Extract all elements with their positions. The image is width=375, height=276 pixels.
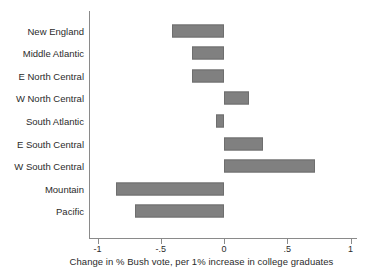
x-axis-tick-label: 1 — [348, 244, 353, 255]
category-label: New England — [0, 25, 84, 36]
bar-row: E South Central — [0, 131, 375, 156]
x-axis-tick-label: -.5 — [155, 244, 166, 255]
chart-figure: New EnglandMiddle AtlanticE North Centra… — [0, 0, 375, 276]
bar — [224, 160, 315, 173]
x-axis-tick-label: -1 — [93, 244, 101, 255]
plot-area: New EnglandMiddle AtlanticE North Centra… — [0, 0, 375, 276]
category-label: Pacific — [0, 206, 84, 217]
category-label: W North Central — [0, 93, 84, 104]
bar — [135, 205, 224, 218]
x-axis-tick-label: .5 — [283, 244, 291, 255]
bar — [172, 24, 224, 37]
bar — [192, 47, 224, 60]
bar — [192, 69, 224, 82]
bar — [116, 182, 224, 195]
bar-row: W North Central — [0, 86, 375, 111]
bar-row: W South Central — [0, 154, 375, 179]
category-label: Middle Atlantic — [0, 48, 84, 59]
bar-row: New England — [0, 18, 375, 43]
bar-row: Pacific — [0, 199, 375, 224]
x-axis-spine — [89, 238, 357, 239]
bar — [224, 92, 249, 105]
bar-row: Middle Atlantic — [0, 41, 375, 66]
category-label: South Atlantic — [0, 115, 84, 126]
x-axis-title-text: Change in % Bush vote, per 1% increase i… — [70, 256, 334, 267]
category-label: E South Central — [0, 138, 84, 149]
category-label: W South Central — [0, 161, 84, 172]
category-label: Mountain — [0, 183, 84, 194]
x-axis-tick-label: 0 — [221, 244, 226, 255]
bar-row: E North Central — [0, 63, 375, 88]
bar-row: Mountain — [0, 176, 375, 201]
category-label: E North Central — [0, 70, 84, 81]
bar — [224, 137, 263, 150]
bar — [216, 114, 224, 127]
bar-row: South Atlantic — [0, 108, 375, 133]
x-axis-title: Change in % Bush vote, per 1% increase i… — [0, 256, 375, 267]
